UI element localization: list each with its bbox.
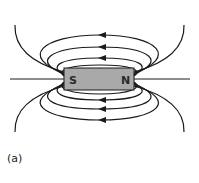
arrow-left-icon [98,44,106,50]
field-line-outer-bottom-left [15,86,64,132]
bar-magnet-field-diagram: S N [0,0,199,183]
field-line-loop-top-3 [40,35,158,73]
arrow-left-icon [98,106,106,112]
arrow-left-icon [98,55,106,61]
field-line-outer-top-left [15,25,64,72]
arrow-left-icon [98,97,106,103]
south-pole-label: S [69,74,77,87]
figure-label: (a) [7,152,22,165]
arrow-left-icon [98,117,106,123]
arrow-left-icon [98,32,106,38]
north-pole-label: N [121,74,130,87]
